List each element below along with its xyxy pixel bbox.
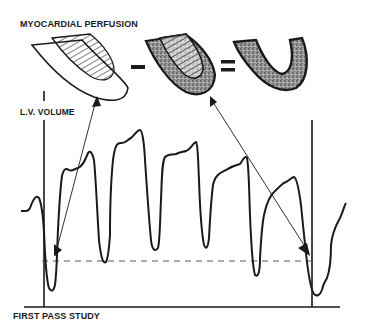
minus-operator-icon	[131, 65, 145, 69]
combined-shape	[146, 34, 215, 94]
diagram-canvas	[0, 0, 369, 330]
end-diastolic-shape	[32, 34, 128, 100]
equals-operator-icon	[221, 60, 235, 64]
right-arrow-bottom-head-icon	[298, 243, 310, 256]
right-arrow-line	[211, 99, 309, 253]
myocardium-shape	[234, 38, 307, 90]
lv-volume-curve	[21, 130, 346, 295]
right-arrow-top-head-icon	[210, 96, 217, 107]
